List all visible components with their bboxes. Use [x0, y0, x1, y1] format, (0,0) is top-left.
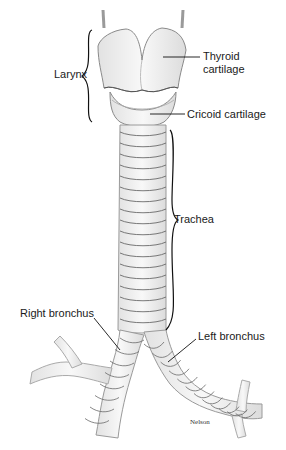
cricoid-cartilage: [110, 92, 176, 127]
anatomy-diagram: Larynx Thyroid cartilage Cricoid cartila…: [0, 0, 286, 450]
trachea-brace: [166, 130, 178, 330]
label-thyroid-cartilage-line2: cartilage: [203, 63, 245, 76]
right-bronchus-leader: [94, 318, 120, 350]
label-trachea: Trachea: [174, 213, 214, 226]
right-bronchus: [30, 330, 144, 438]
label-cricoid-cartilage: Cricoid cartilage: [187, 108, 266, 121]
artist-credit: Nelson: [190, 418, 210, 426]
trachea: [118, 125, 166, 333]
thyroid-cartilage: [98, 28, 186, 92]
label-thyroid-cartilage-line1: Thyroid: [203, 50, 240, 63]
label-larynx: Larynx: [54, 68, 87, 81]
label-right-bronchus: Right bronchus: [20, 307, 94, 320]
superior-horns: [103, 10, 183, 28]
label-left-bronchus: Left bronchus: [198, 330, 265, 343]
